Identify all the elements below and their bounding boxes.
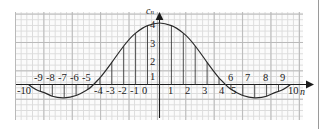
y-tick-2: 2: [150, 57, 155, 68]
x-tick-above-minus8: -8: [46, 73, 55, 84]
x-tick-below-minus2: -2: [118, 86, 127, 97]
x-tick-below-minus10: -10: [17, 86, 31, 97]
x-tick-above-9: 9: [280, 73, 285, 84]
x-tick-above-minus9: -9: [34, 73, 43, 84]
x-tick-above-minus6: -6: [70, 73, 79, 84]
y-axis-label-subscript: n: [150, 8, 154, 16]
y-axis-label: cn: [146, 6, 154, 16]
x-tick-above-minus5: -5: [82, 73, 91, 84]
plot-svg: [0, 0, 327, 129]
x-tick-above-6: 6: [228, 73, 233, 84]
x-tick-above-8: 8: [263, 73, 268, 84]
x-tick-below-1: 1: [168, 86, 173, 97]
x-tick-below-10: 10: [288, 86, 299, 97]
x-tick-below-3: 3: [202, 86, 207, 97]
x-tick-below-2: 2: [185, 86, 190, 97]
x-tick-below-minus1: -1: [130, 86, 139, 97]
x-axis-label: n: [300, 87, 305, 97]
x-tick-above-minus7: -7: [58, 73, 67, 84]
y-tick-4: 4: [150, 20, 155, 31]
page-edge-rule: [318, 0, 319, 129]
y-tick-1: 1: [150, 72, 155, 83]
figure-root: 4 3 2 1 cn -9 -8 -7 -6 -5 6 7 8 9 -10 -4…: [0, 0, 327, 129]
x-tick-below-minus3: -3: [106, 86, 115, 97]
x-tick-below-4: 4: [219, 86, 224, 97]
x-tick-below-0: 0: [142, 86, 147, 97]
x-tick-below-5: 5: [231, 86, 236, 97]
x-tick-above-7: 7: [245, 73, 250, 84]
y-axis-arrow: [156, 12, 164, 20]
x-axis-arrow: [306, 81, 314, 89]
x-tick-below-minus4: -4: [94, 86, 103, 97]
y-tick-3: 3: [150, 39, 155, 50]
